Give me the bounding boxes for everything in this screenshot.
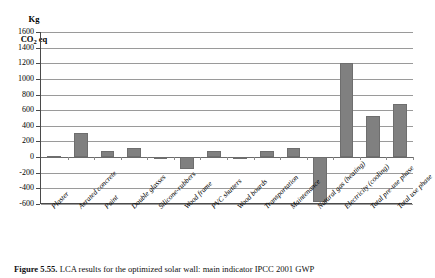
figure-container: Kg CO2 eq 16001400120010008006004002000-… xyxy=(0,0,435,278)
bar-pvc-shutters xyxy=(207,151,221,157)
bar-wood-boards xyxy=(233,157,247,159)
x-tick-mark-4 xyxy=(174,157,175,160)
bar-electricity-cooling xyxy=(340,63,354,157)
bar-total-use-phase xyxy=(393,104,407,157)
x-tick-mark-2 xyxy=(121,157,122,160)
y-tick-label-1000: 1000 xyxy=(2,75,34,83)
plot-area xyxy=(40,32,412,204)
bar-silicone-rubbers xyxy=(154,157,168,159)
y-tick-label-600: 600 xyxy=(2,106,34,114)
caption-text: LCA results for the optimized solar wall… xyxy=(60,264,315,274)
bar-paint xyxy=(101,151,115,157)
y-tick-label--600: -600 xyxy=(2,200,34,208)
bar-plaster xyxy=(47,156,61,158)
x-tick-mark-13 xyxy=(413,157,414,160)
bar-transportation xyxy=(260,151,274,157)
x-tick-mark-0 xyxy=(68,157,69,160)
y-tick-label-400: 400 xyxy=(2,122,34,130)
bar-maintenance xyxy=(287,148,301,157)
bar-wood-frame xyxy=(180,157,194,169)
y-tick-label-1400: 1400 xyxy=(2,44,34,52)
y-tick-label--200: -200 xyxy=(2,169,34,177)
y-tick-label-0: 0 xyxy=(2,153,34,161)
x-tick-mark-3 xyxy=(147,157,148,160)
bar-aerated-concrete xyxy=(74,133,88,157)
x-tick-mark-1 xyxy=(94,157,95,160)
y-tick-label-1600: 1600 xyxy=(2,28,34,36)
x-tick-mark-6 xyxy=(227,157,228,160)
x-tick-mark-9 xyxy=(307,157,308,160)
x-axis-category-labels: PlasterAerated concretePaintDouble glass… xyxy=(40,205,435,265)
figure-caption: Figure 5.55. LCA results for the optimiz… xyxy=(14,264,434,275)
y-tick-label--400: -400 xyxy=(2,184,34,192)
bar-double-glasses xyxy=(127,148,141,157)
y-tick-label-200: 200 xyxy=(2,137,34,145)
x-tick-mark-12 xyxy=(386,157,387,160)
x-tick-mark-8 xyxy=(280,157,281,160)
caption-figure-number: Figure 5.55. xyxy=(14,264,58,274)
bar-total-pre-use-phase xyxy=(366,116,380,157)
x-tick-mark-10 xyxy=(333,157,334,160)
bar-series xyxy=(41,32,413,204)
y-tick-label-800: 800 xyxy=(2,91,34,99)
y-tick-label-1200: 1200 xyxy=(2,59,34,67)
x-tick-mark-5 xyxy=(200,157,201,160)
x-tick-mark-7 xyxy=(254,157,255,160)
